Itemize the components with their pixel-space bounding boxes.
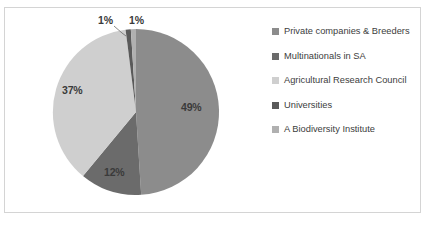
pie-chart-figure: 49% 37% 12% 1% 1% Private companies & Br… xyxy=(0,0,426,228)
plot-area: 49% 37% 12% 1% 1% Private companies & Br… xyxy=(0,0,426,228)
legend-item-label: Private companies & Breeders xyxy=(284,26,410,38)
legend-item-agricultural-research-council[interactable]: Agricultural Research Council xyxy=(272,75,422,87)
legend-item-multinationals[interactable]: Multinationals in SA xyxy=(272,51,422,63)
square-marker-icon xyxy=(272,53,279,60)
legend-item-universities[interactable]: Universities xyxy=(272,100,422,112)
chart-legend: Private companies & Breeders Multination… xyxy=(272,26,422,149)
slice-label-agricultural-research-council: 37% xyxy=(62,84,82,96)
slice-label-universities: 1% xyxy=(98,14,113,26)
legend-item-biodiversity-institute[interactable]: A Biodiversity Institute xyxy=(272,124,422,136)
slice-label-multinationals: 12% xyxy=(104,166,124,178)
legend-item-label: Agricultural Research Council xyxy=(284,75,406,87)
square-marker-icon xyxy=(272,126,279,133)
legend-item-label: Universities xyxy=(284,100,332,112)
pie-graphic xyxy=(36,12,246,217)
slice-label-private-companies: 49% xyxy=(181,101,201,113)
legend-item-private-companies[interactable]: Private companies & Breeders xyxy=(272,26,422,38)
square-marker-icon xyxy=(272,102,279,109)
square-marker-icon xyxy=(272,28,279,35)
slice-label-biodiversity-institute: 1% xyxy=(129,14,144,26)
square-marker-icon xyxy=(272,77,279,84)
pie-slice-private-companies xyxy=(136,29,219,195)
legend-item-label: A Biodiversity Institute xyxy=(284,124,375,136)
legend-item-label: Multinationals in SA xyxy=(284,51,366,63)
